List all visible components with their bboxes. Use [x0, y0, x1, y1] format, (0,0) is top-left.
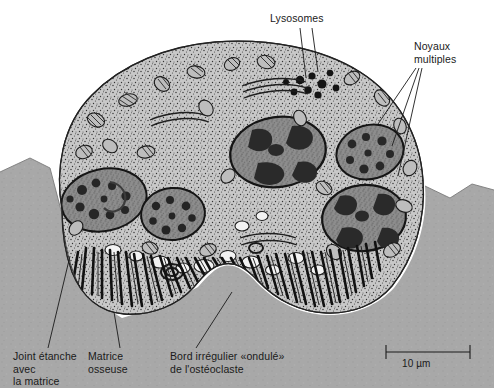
label-noyaux-multiples: Noyaux multiples	[414, 40, 456, 65]
label-joint-etanche: Joint étanche avec la matrice	[13, 350, 77, 388]
label-matrice-osseuse: Matrice osseuse	[88, 350, 128, 375]
label-lysosomes: Lysosomes	[270, 12, 324, 25]
scale-bar-label: 10 µm	[402, 358, 431, 371]
osteoclast-figure: Lysosomes Noyaux multiples Joint étanche…	[0, 0, 494, 388]
label-bord-irregulier: Bord irrégulier «ondulé» de l'ostéoclast…	[170, 350, 284, 375]
